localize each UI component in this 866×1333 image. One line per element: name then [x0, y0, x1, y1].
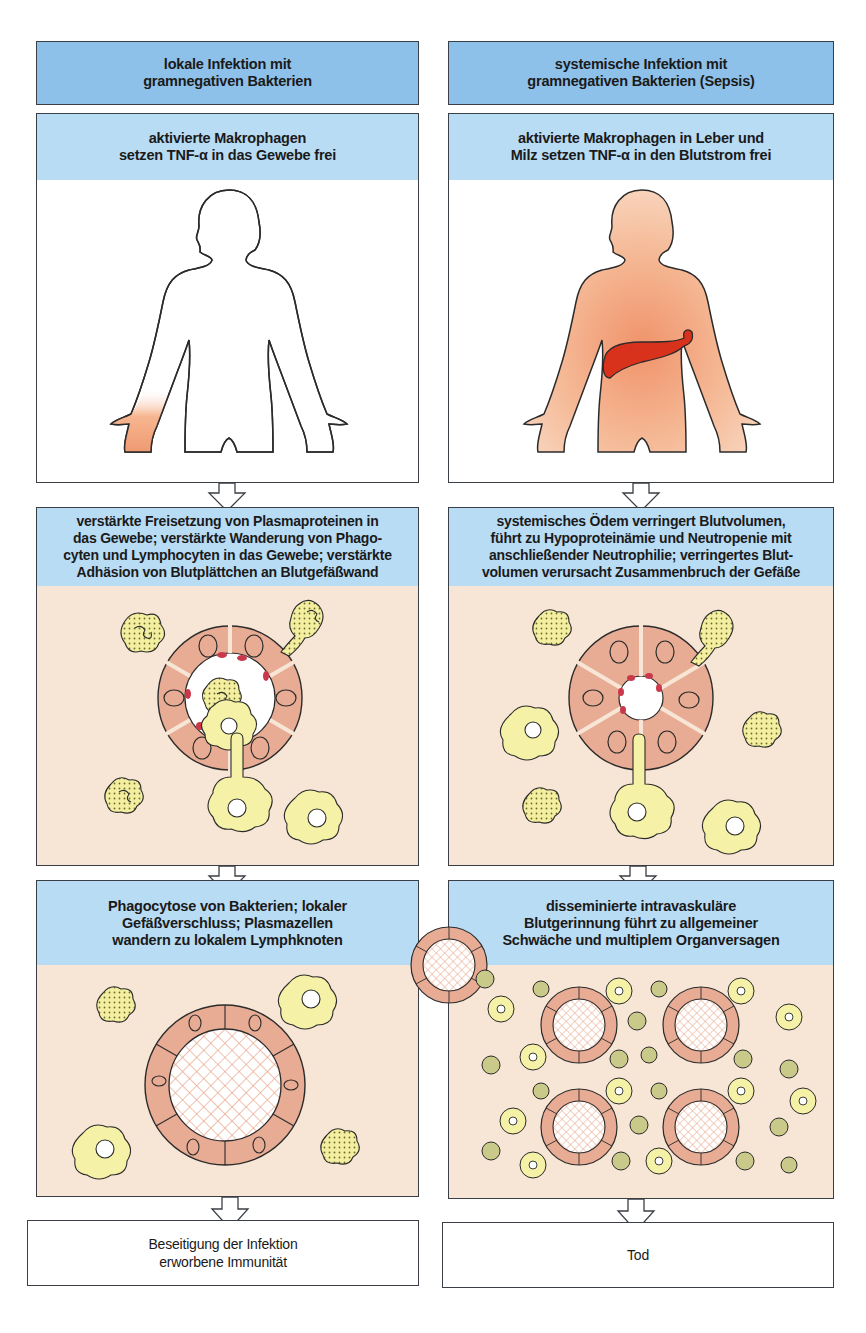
local-outcome-box: Beseitigung der Infektion erworbene Immu… [27, 1220, 419, 1286]
systemic-outcome-box: Tod [442, 1222, 834, 1288]
local-occlusion-scene-panel [36, 965, 419, 1197]
local-vessel-scene-panel [36, 586, 419, 866]
systemic-occlusion-scene-panel [448, 965, 834, 1199]
local-infection-header: lokale Infektion mit gramnegativen Bakte… [36, 41, 419, 105]
body-filled-with-liver-icon [492, 182, 792, 472]
occluded-vessel-icon [37, 965, 420, 1197]
systemic-step2-label: systemisches Ödem verringert Blutvolumen… [448, 507, 834, 587]
body-outline-inflamed-hand-icon [79, 182, 379, 472]
systemic-body-figure-panel [448, 180, 834, 483]
local-step2-label: verstärkte Freisetzung von Plasmaprotein… [36, 507, 419, 587]
systemic-step3-label: disseminierte intravaskuläre Blutgerinnu… [448, 880, 834, 966]
local-step1-label: aktivierte Makrophagen setzen TNF-α in d… [36, 113, 419, 181]
systemic-infection-header: systemische Infektion mit gramnegativen … [448, 41, 834, 105]
local-body-figure-panel [36, 180, 419, 483]
collapsed-vessel-icon [449, 586, 835, 866]
dilated-vessel-icon [37, 586, 420, 866]
local-infection-header-text: lokale Infektion mit gramnegativen Bakte… [143, 56, 312, 90]
four-occluded-vessels-icon [449, 965, 835, 1199]
systemic-step1-label: aktivierte Makrophagen in Leber und Milz… [448, 113, 834, 181]
systemic-vessel-scene-panel [448, 586, 834, 866]
local-step3-label: Phagocytose von Bakterien; lokaler Gefäß… [36, 880, 419, 966]
